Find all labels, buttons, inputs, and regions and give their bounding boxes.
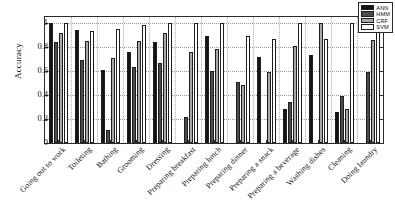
bar-crf-11 xyxy=(345,109,349,143)
bar-svm-10 xyxy=(324,39,328,143)
bar-hmm-12 xyxy=(366,72,370,143)
bar-svm-12 xyxy=(376,23,380,143)
gridline-horizontal xyxy=(45,23,383,24)
y-tick-label: 0.2 xyxy=(8,113,48,123)
legend-label-ann: ANN xyxy=(376,5,388,11)
bar-ann-6 xyxy=(205,36,209,143)
gridline-vertical xyxy=(253,17,254,143)
legend-swatch-ann xyxy=(361,5,374,11)
x-tick-mark xyxy=(344,140,345,143)
x-tick-label-2: Bathing xyxy=(95,145,120,170)
gridline-vertical xyxy=(201,17,202,143)
x-tick-mark xyxy=(84,140,85,143)
y-tick-mark xyxy=(380,47,383,48)
legend-swatch-crf xyxy=(361,18,374,24)
legend-swatch-svm xyxy=(361,24,374,30)
bar-chart-figure: Accuracy 00.20.40.60.81 Going out to wor… xyxy=(0,0,395,223)
legend-label-svm: SVM xyxy=(376,24,388,30)
bar-crf-4 xyxy=(163,33,167,143)
bar-hmm-7 xyxy=(236,82,240,143)
bar-hmm-4 xyxy=(158,63,162,143)
bar-crf-0 xyxy=(59,33,63,143)
legend-swatch-hmm xyxy=(361,11,374,17)
y-tick-mark xyxy=(380,143,383,144)
bar-svm-6 xyxy=(220,23,224,143)
bar-hmm-2 xyxy=(106,130,110,143)
bar-crf-7 xyxy=(241,85,245,143)
bar-svm-1 xyxy=(90,31,94,143)
x-tick-mark xyxy=(188,140,189,143)
bar-svm-5 xyxy=(194,23,198,143)
legend-label-hmm: HMM xyxy=(376,11,390,17)
gridline-vertical xyxy=(71,17,72,143)
bar-hmm-3 xyxy=(132,67,136,143)
x-tick-mark xyxy=(214,140,215,143)
x-tick-mark xyxy=(318,140,319,143)
bar-crf-1 xyxy=(85,41,89,143)
legend-item-hmm[interactable]: HMM xyxy=(361,11,390,17)
x-tick-mark xyxy=(240,140,241,143)
bar-ann-1 xyxy=(75,30,79,143)
x-tick-mark xyxy=(58,140,59,143)
bar-crf-12 xyxy=(371,40,375,143)
bar-svm-11 xyxy=(350,23,354,143)
bar-hmm-5 xyxy=(184,117,188,143)
x-tick-label-0: Going out to work xyxy=(18,145,67,194)
y-tick-mark xyxy=(380,119,383,120)
bar-svm-2 xyxy=(116,29,120,143)
gridline-vertical xyxy=(97,17,98,143)
bar-hmm-0 xyxy=(54,42,58,143)
x-tick-mark xyxy=(136,140,137,143)
x-tick-mark xyxy=(292,140,293,143)
legend-item-svm[interactable]: SVM xyxy=(361,24,390,30)
gridline-vertical xyxy=(357,17,358,143)
x-tick-mark xyxy=(110,140,111,143)
gridline-vertical xyxy=(305,17,306,143)
gridline-vertical xyxy=(227,17,228,143)
bar-ann-8 xyxy=(257,57,261,143)
gridline-vertical xyxy=(149,17,150,143)
bar-hmm-6 xyxy=(210,71,214,143)
gridline-vertical xyxy=(331,17,332,143)
bar-ann-10 xyxy=(309,55,313,143)
y-tick-label: 0 xyxy=(8,137,48,147)
y-tick-mark xyxy=(380,95,383,96)
plot-inner xyxy=(45,17,383,143)
bar-svm-9 xyxy=(298,23,302,143)
x-tick-mark xyxy=(162,140,163,143)
bar-hmm-9 xyxy=(288,102,292,143)
x-tick-mark xyxy=(266,140,267,143)
bar-ann-3 xyxy=(127,52,131,143)
bar-svm-7 xyxy=(246,36,250,143)
y-tick-label: 0.6 xyxy=(8,65,48,75)
bar-crf-8 xyxy=(267,72,271,143)
bar-svm-4 xyxy=(168,23,172,143)
bar-svm-0 xyxy=(64,23,68,143)
bar-ann-0 xyxy=(49,23,53,143)
bar-crf-5 xyxy=(189,52,193,143)
gridline-horizontal xyxy=(45,47,383,48)
bar-hmm-1 xyxy=(80,60,84,143)
bar-crf-2 xyxy=(111,58,115,143)
bar-crf-10 xyxy=(319,23,323,143)
gridline-vertical xyxy=(175,17,176,143)
bar-crf-3 xyxy=(137,41,141,143)
bar-ann-2 xyxy=(101,70,105,143)
x-tick-mark xyxy=(370,140,371,143)
gridline-vertical xyxy=(123,17,124,143)
x-tick-label-1: Toileting xyxy=(66,145,93,172)
legend-label-crf: CRF xyxy=(376,18,388,24)
gridline-vertical xyxy=(279,17,280,143)
bar-ann-9 xyxy=(283,109,287,143)
bar-svm-8 xyxy=(272,39,276,143)
bar-crf-6 xyxy=(215,49,219,143)
bar-ann-4 xyxy=(153,42,157,143)
y-tick-label: 0.4 xyxy=(8,89,48,99)
y-tick-mark xyxy=(380,71,383,72)
legend-item-ann[interactable]: ANN xyxy=(361,5,390,11)
plot-area xyxy=(44,16,384,144)
bar-crf-9 xyxy=(293,46,297,143)
bar-hmm-11 xyxy=(340,96,344,143)
bar-ann-11 xyxy=(335,112,339,143)
legend-item-crf[interactable]: CRF xyxy=(361,18,390,24)
